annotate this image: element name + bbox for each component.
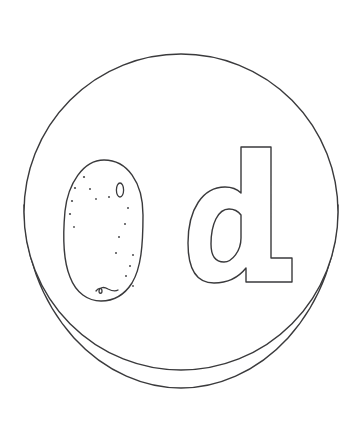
potato-speck (124, 223, 126, 225)
potato-speck (71, 200, 73, 202)
coloring-page (0, 0, 359, 425)
potato-speck (127, 207, 129, 209)
potato-speck (125, 275, 127, 277)
potato-speck (89, 188, 91, 190)
potato-speck (95, 198, 97, 200)
potato-speck (83, 176, 85, 178)
potato-speck (73, 226, 75, 228)
potato-speck (129, 265, 131, 267)
potato-speck (132, 254, 134, 256)
potato-speck (118, 236, 120, 238)
potato-speck (69, 213, 71, 215)
potato-speck (108, 196, 110, 198)
potato-outline (64, 160, 143, 301)
potato-speck (74, 187, 76, 189)
potato-speck (132, 285, 134, 287)
potato-speck (115, 252, 117, 254)
potato[interactable] (64, 160, 143, 301)
artboard (0, 0, 359, 425)
